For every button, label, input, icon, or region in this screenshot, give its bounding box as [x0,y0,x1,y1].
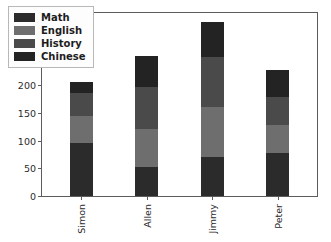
y-axis-tick [38,168,42,169]
bar-segment-chinese [70,82,93,93]
legend-item-english: English [14,24,86,37]
legend-swatch-english [14,26,35,35]
bar-segment-chinese [266,70,289,98]
x-axis-tick [81,196,82,200]
bar-segment-chinese [201,22,224,57]
bar-segment-math [266,153,289,196]
bar-segment-math [70,143,93,196]
bar-segment-english [135,129,158,167]
legend-item-history: History [14,37,86,50]
legend-swatch-history [14,39,35,48]
legend-swatch-math [14,13,35,22]
legend-label: English [41,26,82,36]
bar-segment-history [201,57,224,107]
bar-segment-english [201,107,224,157]
legend-item-math: Math [14,11,86,24]
y-axis-tick [38,141,42,142]
bar-allen [135,56,158,196]
legend-swatch-chinese [14,52,35,61]
y-axis-tick-label: 0 [30,191,36,202]
bar-jimmy [201,22,224,196]
legend-item-chinese: Chinese [14,50,86,63]
chart-figure: 050100150200250300SimonAllenJimmyPeter M… [0,0,331,242]
legend-label: History [41,39,82,49]
legend-label: Math [41,13,70,23]
bar-segment-english [266,125,289,153]
bar-segment-math [135,167,158,196]
bar-simon [70,82,93,196]
y-axis-tick [38,113,42,114]
bar-segment-history [266,97,289,125]
y-axis-tick-label: 100 [18,135,36,146]
x-axis-tick [212,196,213,200]
x-axis-tick [278,196,279,200]
bar-peter [266,70,289,196]
y-axis-tick-label: 50 [24,163,36,174]
chart-legend: MathEnglishHistoryChinese [8,6,94,68]
y-axis-tick-label: 200 [18,80,36,91]
bar-segment-english [70,116,93,144]
y-axis-tick [38,196,42,197]
y-axis-tick [38,85,42,86]
legend-label: Chinese [41,52,86,62]
bar-segment-history [135,87,158,129]
x-axis-tick [147,196,148,200]
bar-segment-chinese [135,56,158,88]
bar-segment-math [201,157,224,196]
bar-segment-history [70,93,93,115]
y-axis-tick-label: 150 [18,107,36,118]
